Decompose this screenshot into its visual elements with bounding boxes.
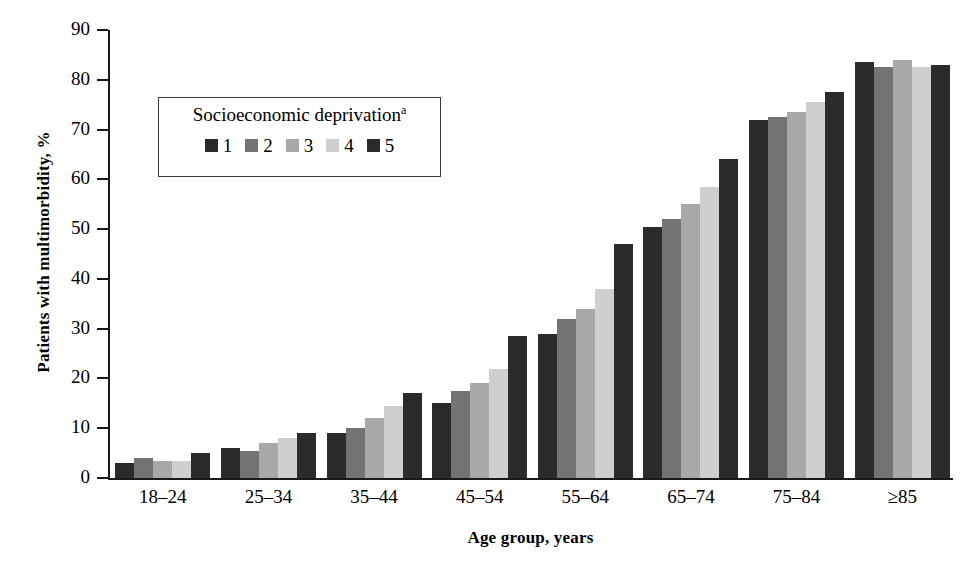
y-axis-title: Patients with multimorbidity, % (22, 12, 66, 492)
y-axis-tick-label: 0 (81, 466, 91, 488)
bar (508, 336, 527, 478)
bar (384, 406, 403, 478)
x-axis-line (108, 478, 953, 480)
bar (489, 369, 508, 479)
bar (855, 62, 874, 478)
legend-title-text: Socioeconomic deprivation (193, 104, 401, 125)
bar (432, 403, 451, 478)
y-axis-tick: 80 (97, 79, 108, 81)
bar-group (538, 30, 633, 478)
legend: Socioeconomic deprivationa 12345 (158, 97, 441, 177)
legend-swatch (286, 139, 299, 152)
bar (470, 383, 489, 478)
legend-label: 3 (304, 136, 314, 155)
bar (912, 67, 931, 478)
bar (115, 463, 134, 478)
bar (134, 458, 153, 478)
bar (191, 453, 210, 478)
y-axis-tick-label: 10 (71, 416, 90, 438)
bar-group (855, 30, 950, 478)
y-axis-tick-label: 70 (71, 118, 90, 140)
bar (172, 461, 191, 478)
legend-title-superscript: a (401, 103, 406, 117)
bar (451, 391, 470, 478)
bar (278, 438, 297, 478)
bar (806, 102, 825, 478)
bar (662, 219, 681, 478)
multimorbidity-bar-chart: Patients with multimorbidity, % 01020304… (0, 0, 974, 570)
bar (297, 433, 316, 478)
bar (221, 448, 240, 478)
bar (403, 393, 422, 478)
bar (365, 418, 384, 478)
y-axis-tick-label: 60 (71, 167, 90, 189)
legend-item: 3 (286, 136, 314, 155)
legend-item: 2 (245, 136, 273, 155)
legend-label: 2 (263, 136, 273, 155)
bar (749, 120, 768, 478)
y-axis-tick-label: 30 (71, 317, 90, 339)
bar (576, 309, 595, 478)
bar (538, 334, 557, 478)
bar (825, 92, 844, 478)
y-axis-tick: 90 (97, 29, 108, 31)
y-axis-tick: 60 (97, 178, 108, 180)
y-axis-tick: 30 (97, 328, 108, 330)
x-axis-title: Age group, years (108, 528, 953, 548)
y-axis-tick-label: 50 (71, 217, 90, 239)
bar (327, 433, 346, 478)
bar-group (643, 30, 738, 478)
bar (557, 319, 576, 478)
legend-item: 1 (205, 136, 233, 155)
bar (643, 227, 662, 478)
y-axis-tick-label: 40 (71, 267, 90, 289)
y-axis-tick: 50 (97, 228, 108, 230)
bar (614, 244, 633, 478)
y-axis-tick-label: 90 (71, 18, 90, 40)
legend-label: 5 (385, 136, 395, 155)
bar (153, 461, 172, 478)
bar-group (432, 30, 527, 478)
legend-label: 4 (344, 136, 354, 155)
bar (259, 443, 278, 478)
bar (719, 159, 738, 478)
bar (768, 117, 787, 478)
legend-title: Socioeconomic deprivationa (171, 105, 428, 126)
bar (787, 112, 806, 478)
bar (681, 204, 700, 478)
legend-item: 5 (367, 136, 395, 155)
bar (700, 187, 719, 478)
bar (240, 451, 259, 478)
bar (893, 60, 912, 478)
legend-swatch (205, 139, 218, 152)
bar (346, 428, 365, 478)
bar (931, 65, 950, 478)
x-axis-tick-label: ≥85 (832, 486, 972, 508)
legend-swatch (367, 139, 380, 152)
legend-label: 1 (223, 136, 233, 155)
y-axis-tick: 20 (97, 377, 108, 379)
bar-group (749, 30, 844, 478)
legend-swatch (326, 139, 339, 152)
y-axis-tick-label: 20 (71, 366, 90, 388)
y-axis-tick: 70 (97, 129, 108, 131)
legend-item: 4 (326, 136, 354, 155)
legend-items: 12345 (171, 136, 428, 155)
y-axis-tick: 0 (97, 477, 108, 479)
bar (595, 289, 614, 478)
legend-swatch (245, 139, 258, 152)
bar (874, 67, 893, 478)
y-axis-tick-label: 80 (71, 68, 90, 90)
y-axis-tick: 40 (97, 278, 108, 280)
y-axis-tick: 10 (97, 427, 108, 429)
